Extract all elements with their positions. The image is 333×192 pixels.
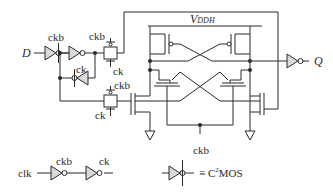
clk-label: clk — [18, 168, 31, 179]
c2mos-inverter-input — [45, 46, 56, 60]
output-inverter — [287, 54, 298, 68]
ck-label-feedback-inv: ck — [76, 64, 86, 75]
clock-inverter-2 — [86, 166, 97, 180]
c2mos-legend-symbol — [169, 166, 180, 180]
ckb-label-pulldown: ckb — [193, 145, 209, 156]
circuit-diagram: D ckb ck ckb ck ckb ck VDDH Q ckb clk ck… — [0, 0, 333, 192]
ckb-legend-label: ckb — [56, 156, 72, 167]
equiv-symbol: ≡ — [199, 167, 205, 179]
clock-inverter-1 — [51, 166, 62, 180]
transmission-gate-bottom — [104, 95, 117, 107]
ck-label-tg-top: ck — [113, 66, 123, 77]
ckb-label-tg-bottom: ckb — [114, 80, 130, 91]
input-d-label: D — [22, 47, 31, 59]
c2mos-suffix: MOS — [219, 167, 243, 179]
inverter-latch-forward — [69, 46, 80, 60]
supply-subscript: DDH — [197, 16, 214, 25]
vddh-label: VDDH — [190, 13, 215, 25]
transmission-gate-top — [104, 47, 117, 59]
output-q-label: Q — [314, 55, 323, 67]
schematic-svg — [0, 0, 333, 192]
equivalence-text: ≡ C2MOS — [199, 167, 243, 179]
ck-legend-label: ck — [99, 156, 109, 167]
ckb-label-tg-top: ckb — [89, 31, 105, 42]
ckb-label-input-inv: ckb — [48, 32, 64, 43]
ck-label-tg-bottom: ck — [95, 110, 105, 121]
